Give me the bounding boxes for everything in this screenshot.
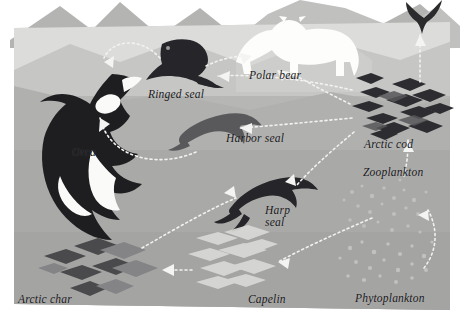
label-arctic-cod: Arctic cod xyxy=(364,138,413,150)
diagram-artwork xyxy=(0,0,461,322)
label-arctic-char: Arctic char xyxy=(18,293,72,305)
label-harbor-seal: Harbor seal xyxy=(226,132,284,144)
label-phytoplankton: Phytoplankton xyxy=(355,292,425,304)
label-polar-bear: Polar bear xyxy=(249,69,301,81)
label-harp-seal: Harp seal xyxy=(265,204,290,228)
label-capelin: Capelin xyxy=(248,293,286,305)
food-web-diagram: Orca Ringed seal Polar bear Arctic cod H… xyxy=(0,0,461,322)
label-orca: Orca xyxy=(72,146,96,158)
label-ringed-seal: Ringed seal xyxy=(148,88,204,100)
label-zooplankton: Zooplankton xyxy=(363,166,423,178)
